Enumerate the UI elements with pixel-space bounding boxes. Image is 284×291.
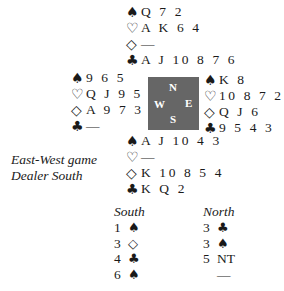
pass-dash: — <box>203 267 231 283</box>
south-hand: ♠A J 10 4 3 ♡— ◇K 10 8 5 4 ♣K Q 2 <box>126 133 224 197</box>
club-icon: ♣ <box>126 52 141 68</box>
auction-south-column: South 1♠ 3◇ 4♣ 6♠ <box>114 204 145 282</box>
spade-icon: ♠ <box>217 236 229 251</box>
east-diamonds: ◇Q J 6 <box>204 104 284 120</box>
north-diamonds: ◇— <box>126 36 237 52</box>
diamond-icon: ◇ <box>128 236 138 251</box>
notrump-label: NT <box>217 251 235 266</box>
spade-icon: ♠ <box>128 267 140 282</box>
heart-icon: ♡ <box>71 86 86 102</box>
bid: 3♣ <box>203 220 235 236</box>
vulnerability-label: East-West game <box>11 152 97 168</box>
south-diamonds: ◇K 10 8 5 4 <box>126 165 224 181</box>
north-hand: ♠Q 7 2 ♡A K 6 4 ◇— ♣A J 10 8 7 6 <box>126 4 237 68</box>
west-hearts: ♡Q J 9 5 3 <box>71 86 159 102</box>
bid: 4♣ <box>114 251 145 267</box>
compass-south-label: S <box>170 113 176 125</box>
east-hearts: ♡10 8 7 2 <box>204 88 284 104</box>
bid: 3◇ <box>114 236 145 252</box>
west-clubs: ♣— <box>71 118 159 134</box>
club-icon: ♣ <box>126 181 141 197</box>
spade-icon: ♠ <box>126 4 141 20</box>
bid: 3♠ <box>203 236 235 252</box>
compass-east-label: E <box>185 97 192 109</box>
compass-north-label: N <box>169 81 177 93</box>
spade-icon: ♠ <box>71 70 86 86</box>
diamond-icon: ◇ <box>204 104 219 120</box>
south-hearts: ♡— <box>126 149 224 165</box>
south-clubs: ♣K Q 2 <box>126 181 224 197</box>
compass-box: N W E S <box>148 77 199 130</box>
diamond-icon: ◇ <box>126 36 141 52</box>
spade-icon: ♠ <box>204 72 219 88</box>
east-spades: ♠K 8 <box>204 72 284 88</box>
heart-icon: ♡ <box>126 149 141 165</box>
bid: 1♠ <box>114 220 145 236</box>
club-icon: ♣ <box>71 118 86 134</box>
bid: 6♠ <box>114 267 145 283</box>
auction-north-column: North 3♣ 3♠ 5NT — <box>203 204 235 282</box>
deal-info: East-West game Dealer South <box>11 152 97 184</box>
bid: 5NT <box>203 251 235 267</box>
heart-icon: ♡ <box>126 20 141 36</box>
diamond-icon: ◇ <box>71 102 86 118</box>
west-spades: ♠9 6 5 <box>71 70 159 86</box>
compass-west-label: W <box>154 98 165 110</box>
diamond-icon: ◇ <box>126 165 141 181</box>
dealer-label: Dealer South <box>11 168 97 184</box>
auction-south-header: South <box>114 204 145 220</box>
heart-icon: ♡ <box>204 88 219 104</box>
club-icon: ♣ <box>217 220 229 235</box>
north-clubs: ♣A J 10 8 7 6 <box>126 52 237 68</box>
auction-north-header: North <box>203 204 235 220</box>
south-spades: ♠A J 10 4 3 <box>126 133 224 149</box>
north-spades: ♠Q 7 2 <box>126 4 237 20</box>
spade-icon: ♠ <box>128 220 140 235</box>
west-hand: ♠9 6 5 ♡Q J 9 5 3 ◇A 9 7 3 2 ♣— <box>71 70 159 134</box>
north-hearts: ♡A K 6 4 <box>126 20 237 36</box>
club-icon: ♣ <box>128 251 140 266</box>
bid: — <box>203 267 235 283</box>
east-hand: ♠K 8 ♡10 8 7 2 ◇Q J 6 ♣9 5 4 3 <box>204 72 284 136</box>
spade-icon: ♠ <box>126 133 141 149</box>
west-diamonds: ◇A 9 7 3 2 <box>71 102 159 118</box>
